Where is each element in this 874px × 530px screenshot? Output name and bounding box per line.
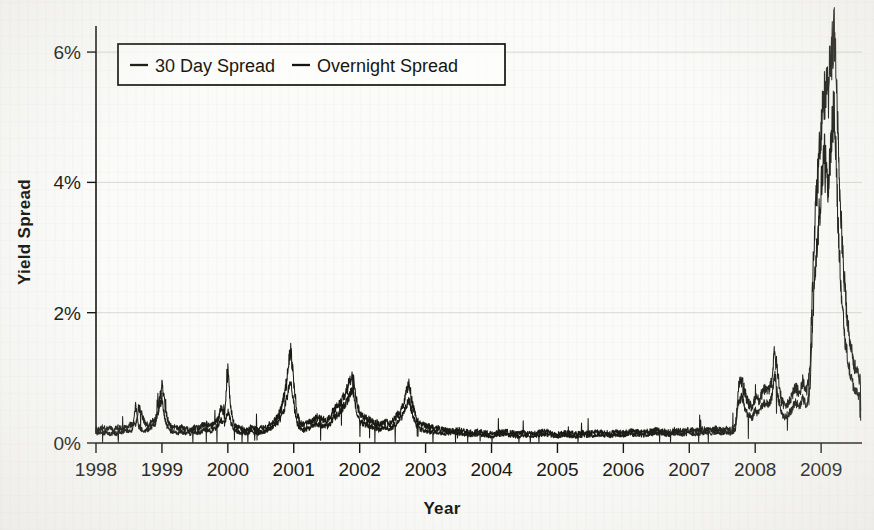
yield-spread-line-chart: 0%2%4%6% 1998199920002001200220032004200… xyxy=(0,0,874,530)
x-tick-label: 2002 xyxy=(339,459,381,480)
gridlines-group xyxy=(96,52,862,313)
x-tick-label: 2009 xyxy=(800,459,842,480)
chart-canvas: 0%2%4%6% 1998199920002001200220032004200… xyxy=(0,0,874,530)
x-axis-title: Year xyxy=(423,499,460,518)
legend-label-30-day-spread: 30 Day Spread xyxy=(155,56,275,76)
chart-legend[interactable]: 30 Day Spread Overnight Spread xyxy=(118,44,505,85)
x-tick-label: 2008 xyxy=(734,459,776,480)
y-tick-label: 2% xyxy=(54,303,82,324)
x-axis-ticks: 1998199920002001200220032004200520062007… xyxy=(75,443,842,480)
x-tick-label: 1998 xyxy=(75,459,117,480)
axes-group xyxy=(96,26,862,443)
y-axis-title: Yield Spread xyxy=(15,179,34,285)
x-tick-label: 2004 xyxy=(470,459,513,480)
x-tick-label: 2006 xyxy=(602,459,644,480)
x-tick-label: 2005 xyxy=(536,459,578,480)
y-axis-ticks: 0%2%4%6% xyxy=(54,42,96,454)
x-tick-label: 2007 xyxy=(668,459,710,480)
legend-label-overnight-spread: Overnight Spread xyxy=(317,56,458,76)
x-tick-label: 2001 xyxy=(273,459,315,480)
y-tick-label: 4% xyxy=(54,172,82,193)
y-tick-label: 0% xyxy=(54,433,82,454)
x-tick-label: 2003 xyxy=(404,459,446,480)
x-tick-label: 1999 xyxy=(141,459,183,480)
y-tick-label: 6% xyxy=(54,42,82,63)
x-tick-label: 2000 xyxy=(207,459,249,480)
